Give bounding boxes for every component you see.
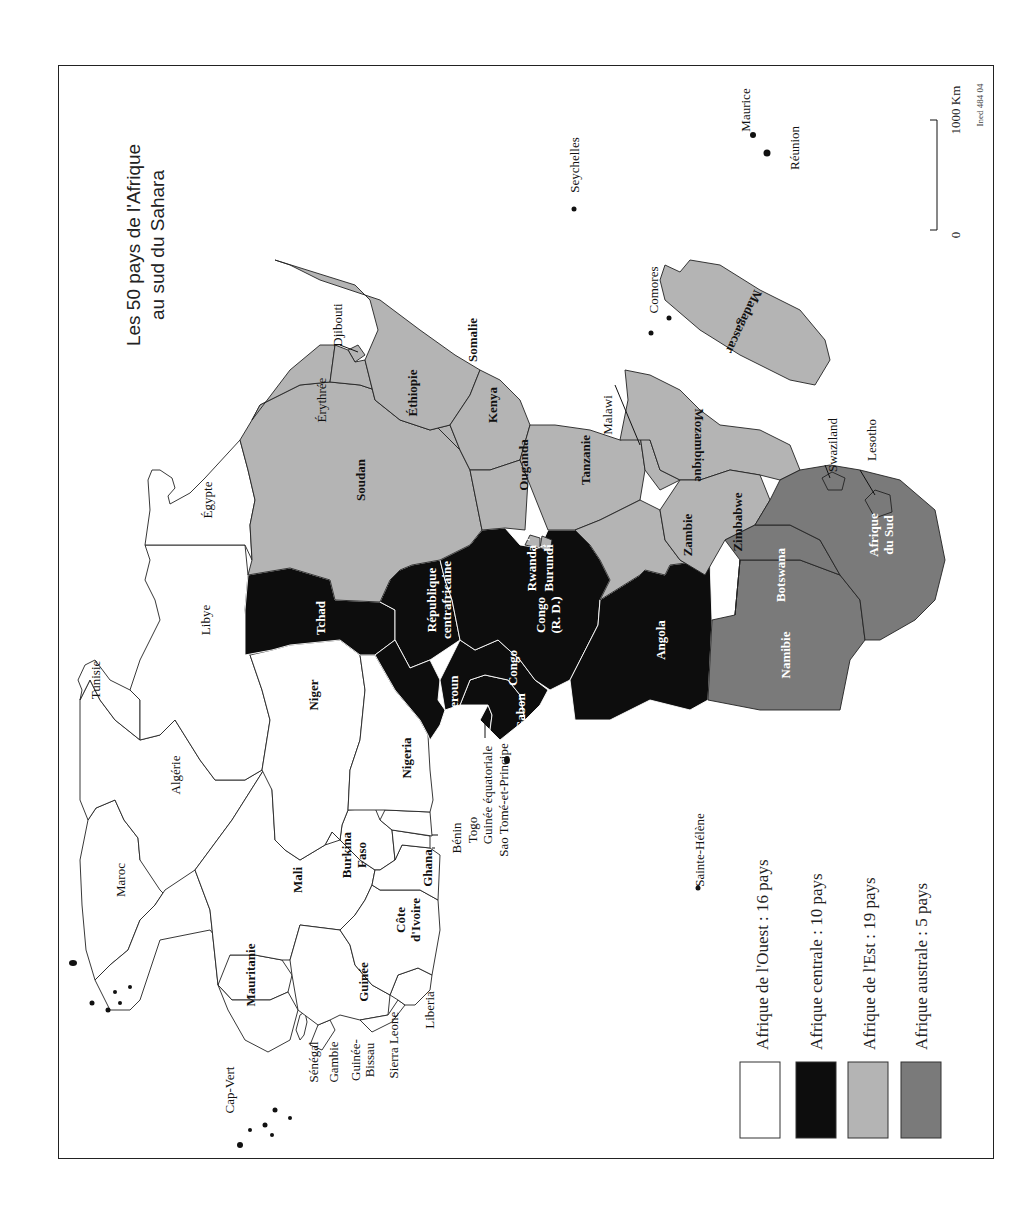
africa-map: Les 50 pays de l'Afrique au sud du Sahar… <box>0 0 1013 1218</box>
legend-swatch-ouest <box>740 1062 780 1138</box>
country-gambie[interactable] <box>296 1012 307 1040</box>
legend-swatch-australe <box>901 1062 941 1138</box>
label-gambie: Gambie <box>326 1041 341 1082</box>
island-reunion[interactable] <box>764 150 771 157</box>
label-erythree: Érythrée <box>314 377 329 422</box>
label-ghana: Ghana <box>420 849 435 887</box>
label-senegal: Sénégal <box>306 1041 321 1083</box>
label-tanzanie: Tanzanie <box>578 435 593 485</box>
label-rca-2: centrafricaine <box>439 561 454 639</box>
label-afrique-du-sud-1: Afrique <box>866 513 881 557</box>
label-divoire: d'Ivoire <box>408 898 423 942</box>
island-cap-vert[interactable] <box>270 1133 274 1137</box>
label-niger: Niger <box>306 679 321 710</box>
island-canaries <box>106 1008 111 1013</box>
label-botswana: Botswana <box>773 547 788 602</box>
label-guinee-bissau-2: Bissau <box>362 1042 377 1077</box>
label-seychelles: Seychelles <box>567 137 582 193</box>
label-comores: Comores <box>646 267 661 314</box>
label-soudan: Soudan <box>353 458 368 501</box>
island-canaries <box>128 985 132 989</box>
label-somalie: Somalie <box>465 318 480 362</box>
label-rdc-1: Congo <box>533 597 548 633</box>
label-sainte-helene: Sainte-Hélène <box>692 813 707 887</box>
legend-label-est: Afrique de l'Est : 19 pays <box>860 877 879 1050</box>
island-canaries <box>113 990 117 994</box>
label-sao-tome: Sao Tomé-et-Principe <box>496 743 511 857</box>
label-guinee-bissau-1: Guinée- <box>348 1039 363 1081</box>
label-guinee: Guinée <box>356 962 371 1002</box>
island-cap-vert[interactable] <box>237 1142 243 1148</box>
label-egypte: Égypte <box>200 481 215 518</box>
label-benin: Bénin <box>449 822 464 854</box>
label-afrique-du-sud-2: du Sud <box>881 515 896 555</box>
island-comores[interactable] <box>649 331 654 336</box>
label-burundi: Burundi <box>541 544 556 591</box>
legend-label-australe: Afrique australe : 5 pays <box>912 883 931 1050</box>
label-tchad: Tchad <box>313 600 328 635</box>
title-line-2: au sud du Sahara <box>147 170 168 320</box>
label-cote: Côte <box>393 907 408 933</box>
label-burkina: Burkina <box>339 831 354 878</box>
island-comores[interactable] <box>667 316 672 321</box>
label-mozambique: Mozambique <box>692 409 707 482</box>
label-algerie: Algérie <box>168 755 183 794</box>
legend-swatch-centrale <box>796 1062 836 1138</box>
label-sierra-leone: Sierra Leone <box>386 1011 401 1078</box>
legend-item-est: Afrique de l'Est : 19 pays <box>848 877 888 1138</box>
credit-text: Ined 484 04 <box>975 83 985 126</box>
label-guinee-equatoriale: Guinée équatoriale <box>480 746 495 845</box>
label-reunion: Réunion <box>787 125 802 170</box>
label-zimbabwe: Zimbabwe <box>730 492 745 551</box>
label-djibouti: Djibouti <box>330 303 345 347</box>
label-liberia: Liberia <box>422 991 437 1029</box>
label-kenya: Kenya <box>485 386 500 423</box>
legend-swatch-est <box>848 1062 888 1138</box>
label-faso: Faso <box>354 842 369 868</box>
credit: Ined 484 04 <box>975 83 985 126</box>
legend: Afrique de l'Ouest : 16 pays Afrique cen… <box>740 860 941 1139</box>
label-ethiopie: Éthiopie <box>405 369 420 416</box>
label-cameroun: Cameroun <box>446 675 461 735</box>
legend-label-ouest: Afrique de l'Ouest : 16 pays <box>753 860 772 1051</box>
label-rdc-2: (R. D.) <box>548 596 563 633</box>
label-congo: Congo <box>505 650 520 686</box>
label-namibie: Namibie <box>778 631 793 678</box>
label-swaziland: Swaziland <box>825 417 840 472</box>
legend-item-ouest: Afrique de l'Ouest : 16 pays <box>740 860 780 1139</box>
island-canaries <box>118 1001 122 1005</box>
map-title: Les 50 pays de l'Afrique au sud du Sahar… <box>123 144 168 346</box>
label-mauritanie: Mauritanie <box>243 943 258 1006</box>
label-togo: Togo <box>465 817 480 844</box>
label-rca-1: République <box>424 568 439 633</box>
label-lesotho: Lesotho <box>864 419 879 461</box>
label-maurice: Maurice <box>738 88 753 132</box>
island-madeira <box>69 960 77 966</box>
island-cap-vert[interactable] <box>273 1108 278 1113</box>
label-libye: Libye <box>198 605 213 636</box>
legend-item-centrale: Afrique centrale : 10 pays <box>796 873 836 1138</box>
label-nigeria: Nigeria <box>399 737 414 779</box>
label-malawi: Malawi <box>600 395 615 435</box>
island-seychelles[interactable] <box>572 207 577 212</box>
island-cap-vert[interactable] <box>288 1116 292 1120</box>
scale-end: 1000 Km <box>948 86 963 135</box>
label-tunisie: Tunisie <box>88 661 103 700</box>
label-angola: Angola <box>653 620 668 660</box>
scale-bar: 0 1000 Km <box>930 86 963 239</box>
label-zambie: Zambie <box>680 513 695 556</box>
island-canaries <box>90 1001 95 1006</box>
legend-item-australe: Afrique australe : 5 pays <box>901 883 941 1138</box>
label-gabon: Gabon <box>513 692 528 730</box>
label-ouganda: Ouganda <box>516 439 531 491</box>
island-maurice[interactable] <box>750 132 756 138</box>
label-rwanda: Rwanda <box>524 544 539 591</box>
label-maroc: Maroc <box>113 863 128 897</box>
scale-start: 0 <box>948 232 963 239</box>
label-cap-vert: Cap-Vert <box>222 1066 237 1113</box>
title-line-1: Les 50 pays de l'Afrique <box>123 144 144 346</box>
island-cap-vert[interactable] <box>248 1128 252 1132</box>
legend-label-centrale: Afrique centrale : 10 pays <box>807 873 826 1050</box>
island-cap-vert[interactable] <box>263 1123 268 1128</box>
label-mali: Mali <box>290 867 305 893</box>
